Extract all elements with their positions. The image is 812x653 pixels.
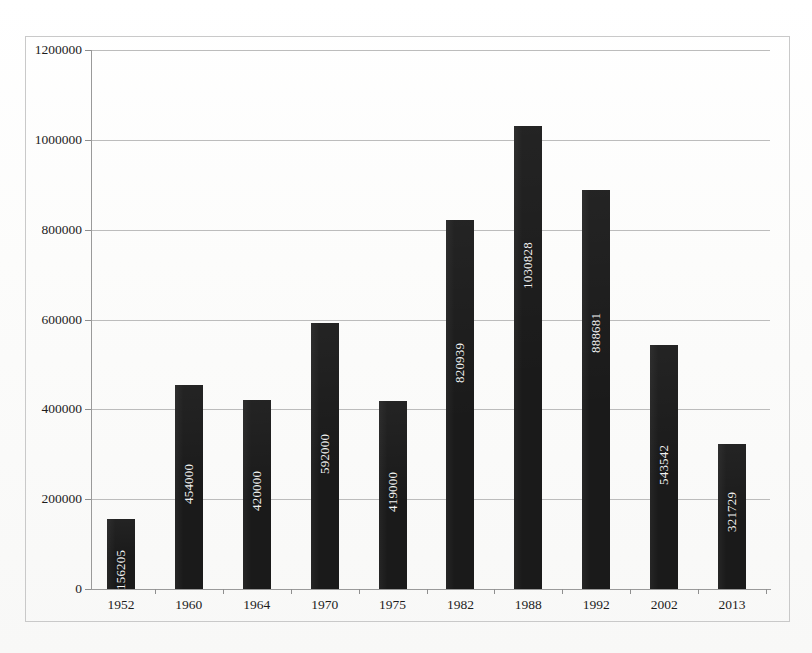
bar-value-label: 156205: [114, 550, 127, 590]
x-axis-tick-mark: [698, 589, 699, 594]
y-axis-tick-mark: [85, 589, 91, 590]
x-axis-tick-mark: [291, 589, 292, 594]
gridline: [91, 230, 770, 231]
bar: [514, 126, 542, 589]
x-axis-line: [91, 589, 771, 590]
bar: [446, 220, 474, 589]
x-axis-tick-mark: [630, 589, 631, 594]
y-axis-tick-mark: [85, 499, 91, 500]
y-axis-tick-labels: 020000040000060000080000010000001200000: [0, 0, 82, 653]
x-axis-tick-mark: [766, 589, 767, 594]
y-axis-tick-mark: [85, 230, 91, 231]
gridline: [91, 50, 770, 51]
bar-value-label: 419000: [386, 472, 399, 512]
x-axis-tick-mark: [427, 589, 428, 594]
chart-screenshot: 020000040000060000080000010000001200000 …: [0, 0, 812, 653]
y-axis-tick-mark: [85, 140, 91, 141]
bar-value-label: 820939: [453, 343, 466, 383]
y-axis-tick-label: 400000: [42, 402, 83, 416]
bar-value-label: 592000: [318, 434, 331, 474]
x-axis-tick-label: 2013: [692, 598, 772, 612]
x-axis-tick-mark: [494, 589, 495, 594]
y-axis-tick-label: 0: [75, 582, 82, 596]
x-axis-tick-mark: [359, 589, 360, 594]
bar-value-label: 454000: [182, 464, 195, 504]
y-axis-tick-mark: [85, 409, 91, 410]
y-axis-tick-label: 1200000: [35, 43, 82, 57]
y-axis-tick-mark: [85, 50, 91, 51]
y-axis-tick-mark: [85, 320, 91, 321]
y-axis-tick-label: 800000: [42, 223, 83, 237]
bar-value-label: 1030828: [521, 242, 534, 289]
bar-value-label: 543542: [657, 445, 670, 485]
gridline: [91, 320, 770, 321]
y-axis-tick-label: 600000: [42, 313, 83, 327]
bar-value-label: 888681: [589, 313, 602, 353]
gridline: [91, 140, 770, 141]
x-axis-tick-mark: [223, 589, 224, 594]
bar-value-label: 420000: [250, 471, 263, 511]
x-axis-tick-mark: [155, 589, 156, 594]
y-axis-line: [91, 50, 92, 590]
bar: [582, 190, 610, 589]
y-axis-tick-label: 1000000: [35, 133, 82, 147]
y-axis-tick-label: 200000: [42, 492, 83, 506]
x-axis-tick-mark: [562, 589, 563, 594]
bar-value-label: 321729: [725, 492, 738, 532]
